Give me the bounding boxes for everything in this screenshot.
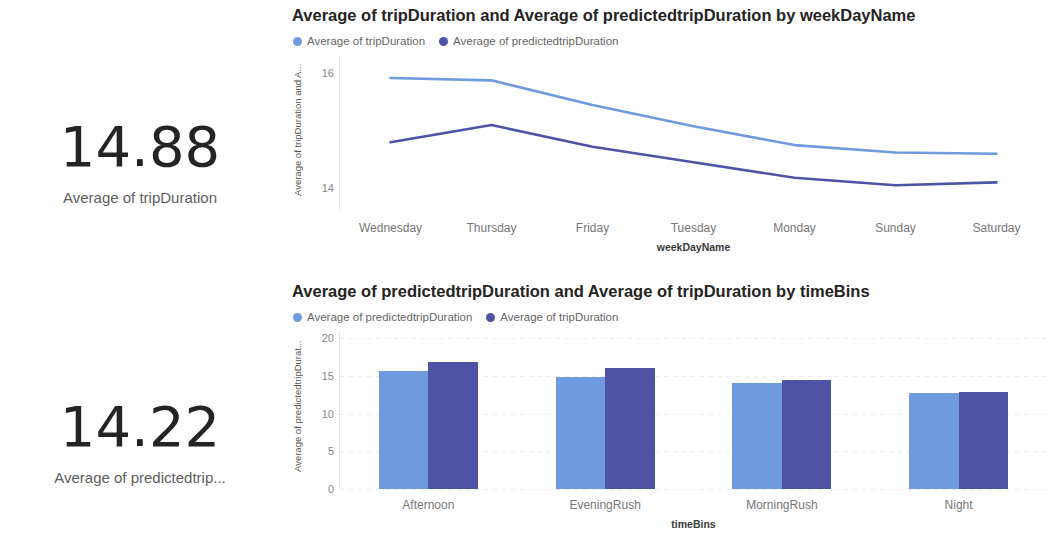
- legend-label: Average of tripDuration: [307, 35, 425, 47]
- y-axis-tick-label: 5: [308, 445, 334, 457]
- x-axis-tick-label: MorningRush: [746, 498, 817, 512]
- bar[interactable]: [605, 368, 654, 489]
- legend-item-trip-duration[interactable]: Average of tripDuration: [486, 311, 618, 323]
- y-axis-tick-label: 10: [308, 408, 334, 420]
- bar[interactable]: [782, 380, 831, 489]
- y-axis-tick-label: 0: [308, 483, 334, 495]
- line-series[interactable]: [391, 78, 997, 154]
- legend-label: Average of tripDuration: [500, 311, 618, 323]
- bar-chart-visual[interactable]: Average of predictedtripDuration and Ave…: [288, 276, 1051, 552]
- x-axis-tick-label: Afternoon: [402, 498, 454, 512]
- bar[interactable]: [428, 362, 477, 489]
- y-axis-line: [339, 332, 340, 489]
- line-series[interactable]: [391, 125, 997, 185]
- bar[interactable]: [556, 377, 605, 489]
- x-axis-tick-label: EveningRush: [569, 498, 640, 512]
- bar-chart-plot-area[interactable]: Average of predictedtripDurat...05101520…: [292, 324, 1051, 539]
- bar[interactable]: [909, 393, 958, 489]
- bar-chart-legend[interactable]: Average of predictedtripDuration Average…: [293, 310, 1051, 324]
- legend-item-predicted-trip-duration[interactable]: Average of predictedtripDuration: [293, 311, 472, 323]
- legend-swatch-icon: [439, 37, 448, 46]
- bar[interactable]: [379, 371, 428, 489]
- y-axis-tick-label: 15: [308, 370, 334, 382]
- kpi-label: Average of predictedtrip...: [0, 469, 280, 486]
- legend-item-trip-duration[interactable]: Average of tripDuration: [293, 35, 425, 47]
- line-chart-visual[interactable]: Average of tripDuration and Average of p…: [288, 0, 1051, 276]
- kpi-value: 14.22: [0, 398, 280, 457]
- y-axis-title: Average of predictedtripDurat...: [292, 324, 306, 489]
- legend-swatch-icon: [293, 313, 302, 322]
- bar[interactable]: [732, 383, 781, 489]
- x-axis-tick-label: Night: [945, 498, 973, 512]
- gridline: [340, 338, 1049, 339]
- legend-label: Average of predictedtripDuration: [307, 311, 472, 323]
- legend-swatch-icon: [293, 37, 302, 46]
- bar[interactable]: [959, 392, 1008, 489]
- gridline: [340, 489, 1049, 490]
- kpi-value: 14.88: [0, 118, 280, 177]
- bar-chart-title: Average of predictedtripDuration and Ave…: [292, 282, 1051, 301]
- legend-label: Average of predictedtripDuration: [453, 35, 618, 47]
- legend-swatch-icon: [486, 313, 495, 322]
- x-axis-title: timeBins: [671, 518, 715, 530]
- y-axis-tick-label: 20: [308, 332, 334, 344]
- line-chart-title: Average of tripDuration and Average of p…: [292, 6, 1051, 25]
- legend-item-predicted-trip-duration[interactable]: Average of predictedtripDuration: [439, 35, 618, 47]
- kpi-card-trip-duration[interactable]: 14.88 Average of tripDuration: [0, 118, 280, 206]
- line-chart-legend[interactable]: Average of tripDuration Average of predi…: [293, 34, 1051, 48]
- kpi-label: Average of tripDuration: [0, 189, 280, 206]
- line-series-group: [292, 48, 1051, 263]
- kpi-card-predicted-trip-duration[interactable]: 14.22 Average of predictedtrip...: [0, 398, 280, 486]
- line-chart-plot-area[interactable]: Average of tripDuration and A...1416Wedn…: [292, 48, 1051, 263]
